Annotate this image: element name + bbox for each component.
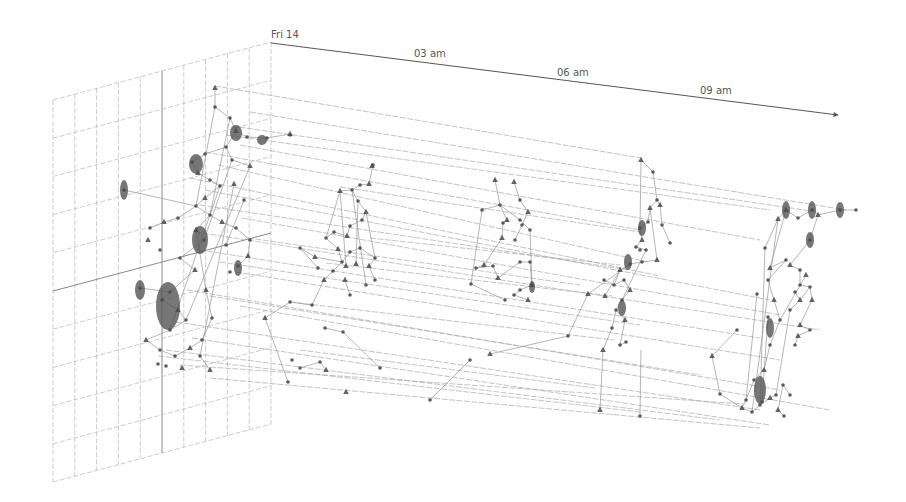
network-edge [798,330,810,336]
network-edge [200,356,210,370]
network-edge [196,206,210,215]
network-node [164,364,168,368]
network-node [373,256,377,260]
cluster-09am [709,201,858,418]
network-edge [210,118,230,215]
network-node [628,262,632,266]
network-node [744,398,748,402]
network-node [230,158,234,162]
network-node [760,400,764,404]
network-node-triangle [335,246,341,251]
network-node [158,348,162,352]
network-node [518,288,522,292]
network-node [518,260,522,264]
network-node [168,290,172,294]
timeline-edge [226,135,770,210]
node-cluster-blob [234,260,242,276]
network-edge [366,212,375,258]
network-node [614,308,618,312]
network-node [332,230,336,234]
network-node [513,238,517,242]
network-edge [352,190,366,285]
network-node [288,300,292,304]
network-node [356,199,360,203]
network-node [620,298,624,302]
network-edge [226,147,232,160]
network-node [520,223,524,227]
network-node [178,256,182,260]
network-edge [712,356,720,394]
network-node [782,414,786,418]
network-node [503,298,507,302]
network-node [360,218,364,222]
network-node [528,260,532,264]
network-node [793,290,797,294]
network-node [210,316,214,320]
network-node-triangle [657,202,663,207]
network-edge [215,107,230,118]
network-node [358,183,362,187]
network-node [122,188,126,192]
network-node [766,278,770,282]
network-edge [343,332,380,368]
network-node [288,133,292,137]
node-cluster-blob [618,300,626,316]
network-node [798,283,802,287]
network-node [242,198,246,202]
network-edge [720,394,742,408]
network-node-triangle [511,179,517,184]
timeline-edge [240,306,830,410]
network-node-triangle [145,237,151,242]
network-edge [514,295,528,300]
network-node-triangle [219,219,225,224]
network-node [348,224,352,228]
network-edge [290,302,312,305]
network-node-triangle [771,297,777,302]
network-node [808,285,812,289]
timeline-edge [190,178,660,276]
network-node [788,308,792,312]
network-node [298,246,302,250]
network-node [173,354,177,358]
network-node-triangle [337,188,343,193]
network-node-triangle [600,347,606,352]
network-edge [360,248,375,258]
network-node [618,343,622,347]
network-edge [653,172,657,200]
timeline-edge [232,126,818,212]
network-node [310,303,314,307]
node-cluster-blob [135,280,145,300]
network-edge [178,206,196,218]
time-axis-arrow [271,43,838,115]
network-node-triangle [495,275,501,280]
network-node-triangle [343,389,349,394]
network-edge [204,160,232,240]
network-node [428,398,432,402]
network-edge [326,238,338,249]
network-edge [471,284,505,300]
network-node [808,238,812,242]
network-node [340,260,344,264]
network-edge [232,160,250,166]
network-edge [776,310,790,395]
network-node [793,343,797,347]
network-node-triangle [187,345,193,350]
network-node [148,226,152,230]
network-node [512,293,516,297]
network-edge [345,280,350,295]
timeline-edge [240,145,760,240]
network-edge [768,280,774,300]
network-node [202,238,206,242]
network-node [610,326,614,330]
network-edge [650,208,657,260]
network-node-triangle [203,287,209,292]
network-node [778,318,782,322]
network-edge [612,310,616,328]
network-node [854,208,858,212]
network-node-triangle [775,407,781,412]
network-node [286,380,290,384]
network-edge [662,225,670,243]
network-node [644,248,648,252]
network-node [203,152,207,156]
network-edge [620,320,625,345]
